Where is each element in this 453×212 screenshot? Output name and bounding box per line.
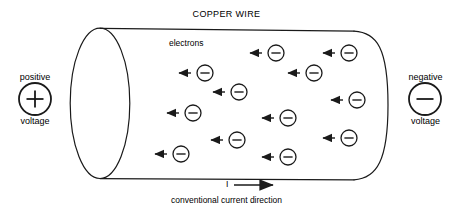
electron	[323, 45, 357, 61]
diagram-canvas: COPPER WIRE electrons positive voltage n…	[0, 0, 453, 212]
cylinder-left-opening	[70, 28, 130, 178]
electron	[262, 149, 296, 165]
negative-terminal-symbol	[409, 83, 441, 115]
electron	[288, 65, 322, 81]
electron	[155, 146, 189, 162]
wire-cylinder	[70, 28, 388, 180]
electron	[211, 132, 245, 148]
diagram-caption: conventional current direction	[0, 196, 453, 205]
electron-group	[155, 45, 365, 165]
electron	[262, 110, 296, 126]
electron	[250, 45, 284, 61]
cylinder-top-edge	[100, 28, 354, 31]
positive-terminal-top-label: positive	[0, 73, 70, 82]
positive-terminal-bottom-label: voltage	[0, 117, 70, 126]
positive-terminal-symbol	[19, 83, 51, 115]
terminal-group	[19, 83, 441, 115]
negative-terminal-top-label: negative	[398, 73, 453, 82]
electron	[323, 130, 357, 146]
electron	[179, 65, 213, 81]
electron	[167, 105, 201, 121]
electron	[331, 92, 365, 108]
electron	[213, 84, 247, 100]
electrons-label: electrons	[169, 39, 204, 48]
diagram-title: COPPER WIRE	[0, 10, 453, 19]
current-symbol-label: I	[226, 180, 228, 189]
negative-terminal-bottom-label: voltage	[398, 117, 453, 126]
